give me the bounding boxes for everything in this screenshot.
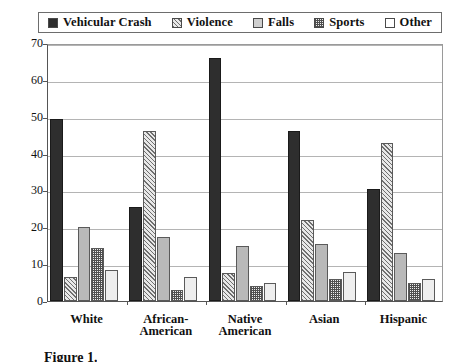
bar <box>301 220 314 301</box>
y-axis-tick-label: 60 <box>17 74 43 86</box>
bar <box>315 244 328 301</box>
legend-label-violence: Violence <box>187 16 233 29</box>
bar <box>264 283 277 301</box>
bar <box>184 277 197 301</box>
legend-label-sports: Sports <box>329 16 364 29</box>
bar-group <box>50 45 119 301</box>
bar-group <box>129 45 198 301</box>
x-axis-group-separator <box>286 301 287 305</box>
y-axis-tick-label: 40 <box>17 148 43 160</box>
legend-item-falls: Falls <box>253 16 294 29</box>
legend-label-falls: Falls <box>268 16 294 29</box>
y-axis-tick-label: 0 <box>17 295 43 307</box>
bar <box>143 131 156 301</box>
bar <box>78 227 91 301</box>
legend-label-vehicular-crash: Vehicular Crash <box>63 16 152 29</box>
bar <box>91 248 104 301</box>
bar-series-container <box>48 45 442 301</box>
bar <box>222 273 235 301</box>
bar-group <box>288 45 357 301</box>
bar <box>408 283 421 301</box>
y-axis-tick-label: 30 <box>17 184 43 196</box>
y-axis-tick-mark <box>43 302 47 303</box>
bar <box>64 277 77 301</box>
x-axis-group-separator <box>127 301 128 305</box>
bar-group <box>209 45 278 301</box>
y-axis-tick-label: 10 <box>17 258 43 270</box>
plot-area <box>47 44 443 302</box>
x-axis-category-label: Native American <box>205 313 284 337</box>
x-axis-category-label: Hispanic <box>364 313 443 325</box>
bar <box>157 237 170 302</box>
legend-item-sports: Sports <box>314 16 364 29</box>
x-axis-category-label: White <box>47 313 126 325</box>
bar <box>329 279 342 301</box>
y-axis-tick-label: 50 <box>17 111 43 123</box>
bar <box>129 207 142 301</box>
bar <box>343 272 356 301</box>
legend-swatch-icon-violence <box>172 18 182 28</box>
x-axis-category-label: African- American <box>126 313 205 337</box>
bar <box>236 246 249 301</box>
legend-item-violence: Violence <box>172 16 233 29</box>
x-axis-group-separator <box>365 301 366 305</box>
legend-swatch-icon-vehicular-crash <box>48 18 58 28</box>
legend-swatch-icon-falls <box>253 18 263 28</box>
y-axis-tick-label: 70 <box>17 37 43 49</box>
legend-item-vehicular-crash: Vehicular Crash <box>48 16 152 29</box>
bar <box>288 131 301 301</box>
bar <box>171 290 184 301</box>
bar <box>367 189 380 301</box>
chart-legend: Vehicular Crash Violence Falls Sports Ot… <box>38 12 442 33</box>
bar <box>209 58 222 301</box>
figure-bar-chart: Vehicular Crash Violence Falls Sports Ot… <box>0 0 466 362</box>
bar-group <box>367 45 436 301</box>
legend-item-other: Other <box>385 16 432 29</box>
x-axis-group-separator <box>206 301 207 305</box>
legend-label-other: Other <box>400 16 432 29</box>
legend-swatch-icon-other <box>385 18 395 28</box>
bar <box>250 286 263 301</box>
legend-swatch-icon-sports <box>314 18 324 28</box>
x-axis-category-label: Asian <box>285 313 364 325</box>
bar <box>422 279 435 301</box>
figure-caption: Figure 1. <box>44 350 97 362</box>
bar <box>50 119 63 301</box>
y-axis-tick-label: 20 <box>17 221 43 233</box>
bar <box>381 143 394 301</box>
bar <box>105 270 118 301</box>
bar <box>394 253 407 301</box>
